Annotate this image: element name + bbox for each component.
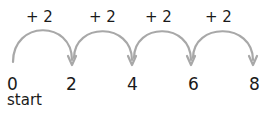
jump-label-2: + 2 xyxy=(89,10,116,25)
jump-arc-1 xyxy=(13,30,72,62)
jump-label-4: + 2 xyxy=(205,10,232,25)
number-8: 8 xyxy=(249,76,260,93)
number-6: 6 xyxy=(188,76,199,93)
jump-arc-4 xyxy=(193,31,253,60)
start-label: start xyxy=(7,93,42,108)
number-4: 4 xyxy=(127,76,138,93)
number-line-diagram: + 2 + 2 + 2 + 2 0 2 4 6 8 start xyxy=(0,0,265,124)
jump-arc-3 xyxy=(134,31,191,60)
number-2: 2 xyxy=(66,76,77,93)
jump-label-1: + 2 xyxy=(26,10,53,25)
jump-label-3: + 2 xyxy=(145,10,172,25)
jump-arc-2 xyxy=(74,31,132,60)
